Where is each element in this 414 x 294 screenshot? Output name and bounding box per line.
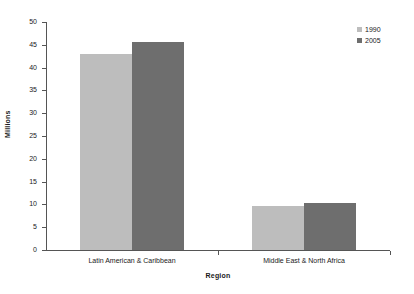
y-axis-tick-mark (42, 68, 46, 69)
bar-chart: Millions 05101520253035404550 Latin Amer… (0, 0, 414, 294)
legend-label: 1990 (365, 24, 381, 35)
y-axis-tick-label: 40 (29, 63, 37, 72)
y-axis-tick-mark (42, 182, 46, 183)
x-axis-tick-mark (218, 251, 219, 255)
chart-legend: 19902005 (357, 24, 381, 46)
y-axis-tick-label: 15 (29, 177, 37, 186)
y-axis-tick-label: 30 (29, 108, 37, 117)
y-axis-tick-mark (42, 90, 46, 91)
x-axis-category-label: Latin American & Caribbean (46, 256, 218, 266)
bar-2005-2[interactable] (304, 203, 356, 250)
y-axis-tick-mark (42, 159, 46, 160)
legend-item-1990[interactable]: 1990 (357, 24, 381, 35)
y-axis-tick-mark (42, 204, 46, 205)
y-axis-line (46, 22, 47, 251)
y-axis-tick-label: 10 (29, 199, 37, 208)
bar-1990-1[interactable] (80, 54, 132, 250)
y-axis-tick-label: 50 (29, 17, 37, 26)
y-axis-tick-mark (42, 136, 46, 137)
x-axis-title: Region (46, 272, 390, 279)
y-axis-tick-label: 5 (33, 222, 37, 231)
y-axis-tick-label: 45 (29, 40, 37, 49)
y-axis-tick-mark (42, 45, 46, 46)
legend-label: 2005 (365, 35, 381, 46)
bar-2005-1[interactable] (132, 42, 184, 250)
y-axis-tick-mark (42, 22, 46, 23)
x-axis-category-label: Middle East & North Africa (218, 256, 390, 266)
legend-swatch-icon (357, 27, 362, 32)
y-axis-tick-mark (42, 113, 46, 114)
y-axis-tick-label: 25 (29, 131, 37, 140)
x-axis-tick-mark (390, 251, 391, 255)
y-axis-tick-label: 20 (29, 154, 37, 163)
y-axis-title: Millions (4, 78, 11, 138)
legend-item-2005[interactable]: 2005 (357, 35, 381, 46)
legend-swatch-icon (357, 38, 362, 43)
bar-1990-2[interactable] (252, 206, 304, 250)
y-axis-tick-label: 0 (33, 245, 37, 254)
y-axis-tick-label: 35 (29, 85, 37, 94)
y-axis-tick-mark (42, 227, 46, 228)
